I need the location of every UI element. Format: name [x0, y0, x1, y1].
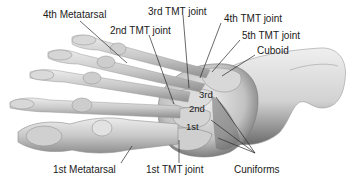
label-cuneiform-2nd: 2nd	[189, 104, 205, 114]
label-cuniforms: Cuniforms	[234, 164, 280, 175]
label-1st-metatarsal: 1st Metatarsal	[53, 164, 116, 175]
label-cuboid: Cuboid	[257, 45, 289, 56]
label-1st-tmt-joint: 1st TMT joint	[146, 164, 203, 175]
toe-ray-1-hallux	[18, 118, 178, 153]
label-2nd-tmt-joint: 2nd TMT joint	[110, 25, 171, 36]
toe-ray-2	[10, 98, 180, 118]
label-4th-tmt-joint: 4th TMT joint	[224, 13, 282, 24]
label-cuneiform-1st: 1st	[186, 122, 199, 132]
label-3rd-tmt-joint: 3rd TMT joint	[148, 6, 207, 17]
foot-bone-diagram: 4th Metatarsal 3rd TMT joint 4th TMT joi…	[0, 0, 354, 179]
label-cuneiform-3rd: 3rd	[199, 90, 213, 100]
label-4th-metatarsal: 4th Metatarsal	[43, 9, 106, 20]
foot-skeleton-illustration	[0, 0, 354, 179]
label-5th-tmt-joint: 5th TMT joint	[242, 30, 300, 41]
